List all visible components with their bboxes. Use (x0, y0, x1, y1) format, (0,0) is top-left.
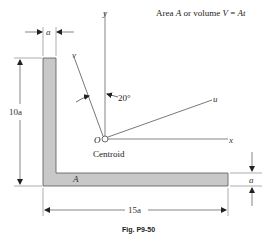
dim-right-label: a (249, 175, 254, 185)
dim-bottom-label: 15a (128, 205, 141, 215)
v-axis-label: v (72, 50, 76, 60)
dim-left-label: 10a (9, 107, 22, 117)
l-shaped-section (43, 58, 228, 186)
centroid-marker (102, 136, 108, 142)
area-volume-label: Area A or volume V = At (156, 8, 246, 18)
centroid-label: Centroid (93, 149, 125, 159)
origin-label: O (94, 135, 101, 145)
angle-arc-right (107, 94, 118, 97)
angle-label: 20° (118, 93, 131, 103)
x-axis-label: x (228, 135, 233, 145)
u-axis (108, 100, 212, 137)
figure-diagram: Area A or volume V = At y x u v 20° O Ce… (0, 0, 269, 245)
figure-caption: Fig. P9-50 (122, 226, 155, 234)
angle-arc (76, 96, 89, 102)
v-axis (74, 57, 103, 136)
dim-top-label: a (46, 27, 51, 37)
u-axis-label: u (213, 94, 218, 104)
area-symbol-label: A (72, 174, 79, 184)
y-axis-label: y (102, 8, 107, 18)
